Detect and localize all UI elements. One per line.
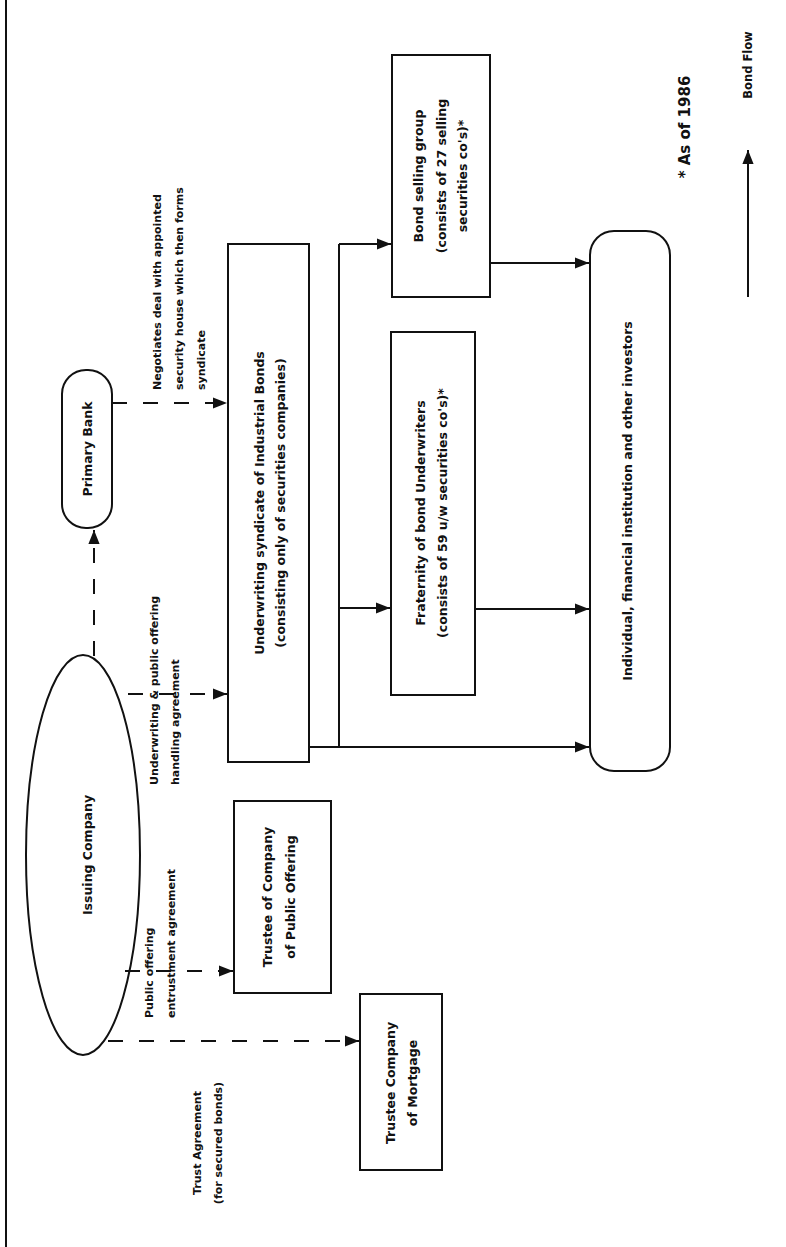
negotiates-line1: Negotiates deal with appointed	[151, 194, 164, 390]
public-offering-line2: entrustment agreement	[165, 869, 178, 1018]
trustee-public-offering-line1: Trustee of Company	[260, 827, 275, 968]
edge-label-public-offering-entrustment: Public offering entrustment agreement	[143, 869, 178, 1018]
bond-selling-line1: Bond selling group	[411, 110, 426, 243]
issuing-company-label: Issuing Company	[80, 795, 95, 915]
edge-label-negotiates: Negotiates deal with appointed security …	[151, 187, 208, 390]
primary-bank-label: Primary Bank	[80, 401, 95, 497]
negotiates-line2: security house which then forms	[173, 187, 186, 390]
trust-agreement-line2: (for secured bonds)	[212, 1082, 225, 1204]
trustee-mortgage-line2: of Mortgage	[405, 1040, 420, 1126]
footnote-as-of: * As of 1986	[676, 76, 694, 179]
node-issuing-company: Issuing Company	[26, 655, 140, 1055]
node-bond-selling-group: Bond selling group (consists of 27 selli…	[392, 55, 490, 297]
underwriting-syndicate-line1: Underwriting syndicate of Industrial Bon…	[252, 351, 267, 655]
negotiates-line3: syndicate	[195, 330, 208, 390]
edge-label-underwriting-agreement: Underwriting & public offering handling …	[148, 596, 182, 785]
trust-agreement-line1: Trust Agreement	[191, 1091, 204, 1195]
underwriting-syndicate-line2: (consisting only of securities companies…	[273, 358, 288, 647]
node-underwriting-syndicate: Underwriting syndicate of Industrial Bon…	[228, 244, 309, 762]
underwriting-agreement-line2: handling agreement	[169, 659, 182, 785]
node-trustee-mortgage: Trustee Company of Mortgage	[360, 994, 442, 1170]
trustee-public-offering-line2: of Public Offering	[283, 835, 298, 958]
bond-selling-line3: securities co's)*	[455, 119, 470, 232]
legend-bond-flow: Bond Flow	[741, 31, 755, 297]
bond-selling-line2: (consists of 27 selling	[434, 99, 449, 253]
investors-label: Individual, financial institution and ot…	[620, 321, 635, 681]
bond-issuance-diagram: Issuing Company Primary Bank Underwritin…	[0, 0, 786, 1247]
legend-label: Bond Flow	[741, 31, 755, 99]
public-offering-line1: Public offering	[143, 928, 156, 1019]
node-primary-bank: Primary Bank	[62, 370, 112, 528]
node-fraternity-underwriters: Fraternity of bond Underwriters (consist…	[391, 332, 475, 695]
underwriting-agreement-line1: Underwriting & public offering	[148, 596, 161, 785]
fraternity-line1: Fraternity of bond Underwriters	[413, 400, 428, 625]
fraternity-line2: (consists of 59 u/w securities co's)*	[435, 388, 450, 638]
edge-label-trust-agreement: Trust Agreement (for secured bonds)	[191, 1082, 225, 1204]
trustee-mortgage-line1: Trustee Company	[383, 1022, 398, 1144]
node-trustee-public-offering: Trustee of Company of Public Offering	[234, 801, 331, 993]
node-investors: Individual, financial institution and ot…	[590, 231, 670, 771]
